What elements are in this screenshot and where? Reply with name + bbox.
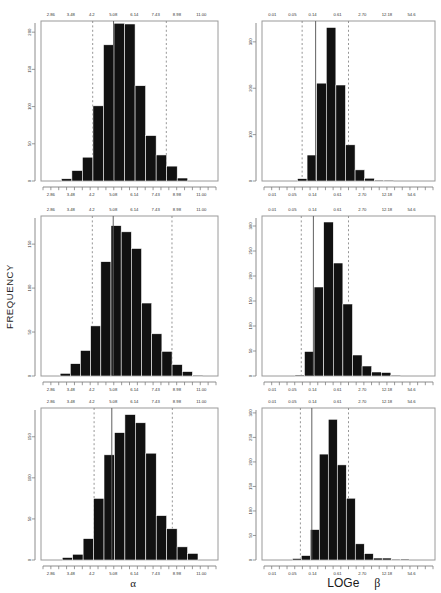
x-tick-label-top: 6.14 <box>130 399 139 404</box>
y-tick-label: 100 <box>27 284 32 292</box>
x-tick-label: 5.08 <box>109 387 118 392</box>
histogram-bar <box>135 423 145 560</box>
x-tick-label-top: 2.70 <box>358 12 367 17</box>
y-tick-label: 150 <box>248 482 253 490</box>
x-axis-title-alpha: α <box>130 577 136 589</box>
x-tick-label-top: 2.86 <box>47 207 56 212</box>
x-tick-label: 4.2 <box>89 192 95 197</box>
x-tick-label: 6.14 <box>130 387 139 392</box>
x-tick-label-top: 4.2 <box>89 12 95 17</box>
histogram-bar <box>82 157 93 181</box>
x-tick-label-top: 2.86 <box>47 399 56 404</box>
histogram-bar <box>317 83 327 181</box>
x-tick-label-top: 0.05 <box>288 399 297 404</box>
x-tick-label-top: 11.00 <box>196 207 207 212</box>
histogram-bar <box>167 166 178 181</box>
x-tick-label: 0.61 <box>334 387 343 392</box>
x-tick-label-top: 5.08 <box>109 12 118 17</box>
x-tick-label-top: 6.14 <box>130 12 139 17</box>
histogram-bar <box>292 559 301 560</box>
x-tick-label: 54.6 <box>407 571 416 576</box>
panel-top-left: 2.863.484.25.086.147.438.9811.002.863.48… <box>27 12 218 197</box>
histogram-bar <box>60 373 70 376</box>
y-tick-label: 150 <box>248 297 253 305</box>
histogram-grid-svg: 2.863.484.25.086.147.438.9811.002.863.48… <box>0 0 441 593</box>
x-tick-label-top: 0.01 <box>268 207 277 212</box>
x-tick-label-top: 2.70 <box>358 207 367 212</box>
y-tick-label: 50 <box>248 532 253 537</box>
y-tick-label: 0 <box>248 374 253 377</box>
histogram-bar <box>80 351 90 376</box>
panel-middle-left: 2.863.484.25.086.147.438.9811.002.863.48… <box>27 207 218 392</box>
histogram-bar <box>188 553 198 560</box>
y-tick-label: 100 <box>27 474 32 482</box>
histogram-bar <box>324 222 334 376</box>
x-tick-label-top: 12.18 <box>382 207 393 212</box>
x-tick-label-top: 8.98 <box>173 12 182 17</box>
x-tick-label: 0.05 <box>288 387 297 392</box>
x-tick-label: 0.61 <box>334 192 343 197</box>
histogram-bar <box>156 155 167 181</box>
panel-bottom-left: 2.863.484.25.086.147.438.9811.002.863.48… <box>27 399 218 576</box>
x-tick-label: 7.43 <box>152 571 161 576</box>
histogram-bar <box>93 106 104 181</box>
histogram-bar <box>177 178 188 181</box>
x-tick-label-top: 12.18 <box>382 12 393 17</box>
x-tick-label: 7.43 <box>152 387 161 392</box>
y-tick-label: 0 <box>248 558 253 561</box>
histogram-bar <box>355 544 364 560</box>
histogram-bar <box>372 372 382 376</box>
x-tick-label-top: 0.14 <box>308 207 317 212</box>
histogram-bar <box>146 453 156 560</box>
histogram-bar <box>131 249 141 376</box>
x-axis-title-loge: LOGe <box>327 576 359 590</box>
x-tick-label-top: 3.48 <box>67 207 76 212</box>
histogram-bar <box>384 180 394 181</box>
y-tick-label: 200 <box>248 84 253 92</box>
histogram-bar <box>328 419 337 560</box>
x-tick-label-top: 4.2 <box>89 399 95 404</box>
x-tick-label: 0.14 <box>308 387 317 392</box>
histogram-bar <box>192 375 202 376</box>
x-tick-label-top: 0.05 <box>288 207 297 212</box>
histogram-bar <box>182 372 192 376</box>
histogram-bar <box>103 45 114 181</box>
x-tick-label-top: 8.98 <box>173 399 182 404</box>
histogram-bar <box>62 558 72 560</box>
x-tick-label: 12.18 <box>382 387 393 392</box>
histogram-bar <box>142 303 152 376</box>
histogram-bar <box>355 170 365 181</box>
y-tick-label: 0 <box>27 558 32 561</box>
x-tick-label-top: 54.6 <box>407 399 416 404</box>
y-tick-label: 150 <box>27 65 32 73</box>
histogram-bar <box>177 547 187 560</box>
y-tick-label: 100 <box>27 102 32 110</box>
x-tick-label-top: 0.01 <box>268 399 277 404</box>
histogram-bar <box>333 263 343 376</box>
histogram-bar <box>156 516 166 560</box>
x-tick-label: 0.05 <box>288 571 297 576</box>
histogram-bar <box>362 366 372 376</box>
y-tick-label: 100 <box>248 507 253 515</box>
histogram-bar <box>83 539 93 560</box>
histogram-bar <box>162 351 172 376</box>
x-tick-label: 8.98 <box>173 192 182 197</box>
histogram-bar <box>352 355 362 376</box>
y-tick-label: 50 <box>27 329 32 334</box>
histogram-bar <box>314 287 324 376</box>
histogram-bar <box>73 554 83 560</box>
x-tick-label: 4.2 <box>89 387 95 392</box>
y-tick-label: 200 <box>248 458 253 466</box>
x-tick-label: 54.6 <box>407 387 416 392</box>
x-tick-label-top: 12.18 <box>382 399 393 404</box>
x-tick-label: 2.86 <box>47 571 56 576</box>
x-tick-label-top: 11.00 <box>196 399 207 404</box>
histogram-bar <box>374 180 384 181</box>
histogram-bar <box>61 179 72 181</box>
x-tick-label: 3.48 <box>67 571 76 576</box>
x-tick-label-top: 0.61 <box>334 399 343 404</box>
histogram-bar <box>365 178 375 181</box>
histogram-bar <box>343 304 353 376</box>
x-tick-label-top: 0.14 <box>308 399 317 404</box>
x-axis-title-beta: β <box>374 576 380 590</box>
